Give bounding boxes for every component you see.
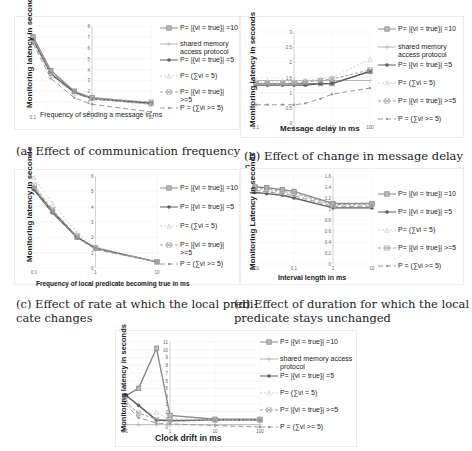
legend-swatch-icon	[260, 423, 278, 431]
legend-item: P= |{vi = true}| =5	[260, 372, 355, 380]
svg-text:11: 11	[163, 340, 168, 345]
svg-text:5: 5	[165, 386, 168, 391]
legend-item: shared memory access protocol	[260, 355, 355, 371]
legend-swatch-icon	[260, 389, 278, 397]
legend-label: P= |{vi = true}| >=5	[280, 406, 338, 414]
chart-e-plot: 012345678910110.1110100	[0, 0, 472, 451]
legend-label: P= (∑vi = 5)	[280, 389, 317, 397]
svg-text:6: 6	[165, 379, 168, 384]
legend-item: P = (∑vi >= 5)	[260, 423, 355, 431]
series-line	[123, 393, 262, 423]
legend-label: P = (∑vi >= 5)	[280, 423, 323, 431]
legend-label: shared memory access protocol	[280, 355, 355, 371]
legend-item: P= |{vi = true}| >=5	[260, 406, 355, 414]
legend-swatch-icon	[260, 355, 278, 363]
legend-swatch-icon	[260, 372, 278, 380]
legend-label: P= |{vi = true}| =10	[280, 338, 338, 346]
chart-e-xlabel: Clock drift in ms	[155, 433, 222, 443]
svg-text:10: 10	[163, 348, 169, 353]
chart-e-ylabel: Monitoring latency in seconds	[119, 324, 128, 432]
legend-swatch-icon	[260, 406, 278, 414]
chart-e-legend: P= |{vi = true}| =10shared memory access…	[260, 338, 355, 448]
svg-text:8: 8	[165, 363, 168, 368]
svg-text:9: 9	[165, 355, 168, 360]
legend-item: P= |{vi = true}| =10	[260, 338, 355, 346]
legend-label: P= |{vi = true}| =5	[280, 372, 334, 380]
legend-item: P= (∑vi = 5)	[260, 389, 355, 397]
legend-swatch-icon	[260, 338, 278, 346]
svg-text:7: 7	[165, 371, 168, 376]
